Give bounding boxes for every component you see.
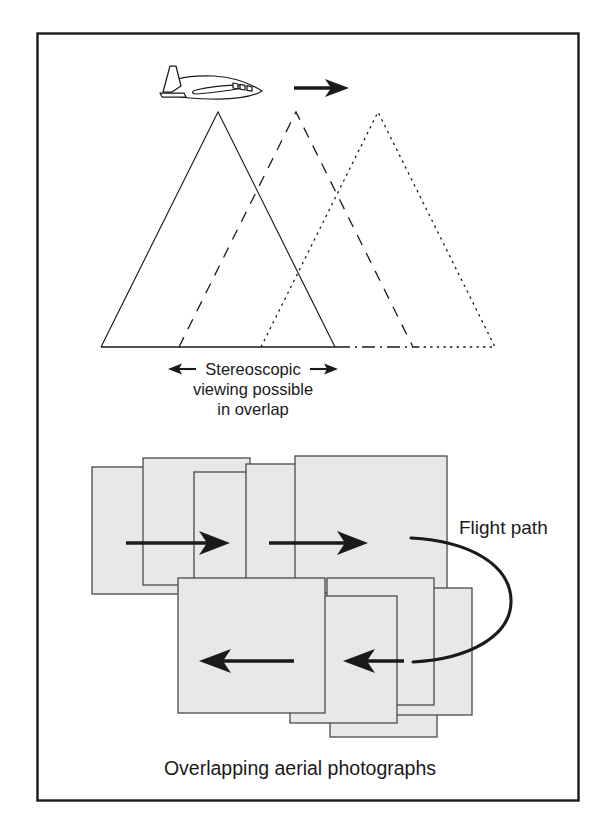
photo-5 — [295, 456, 447, 593]
overlap-label-line1: Stereoscopic — [205, 360, 300, 378]
photo-6 — [178, 578, 325, 713]
figure-root: Stereoscopic viewing possible in overlap — [0, 0, 602, 832]
overlap-label-line3: in overlap — [217, 400, 289, 418]
overlap-label-line2: viewing possible — [193, 380, 313, 398]
flight-path-label: Flight path — [459, 517, 548, 538]
aerial-photography-diagram: Stereoscopic viewing possible in overlap — [0, 0, 602, 832]
lower-panel-caption: Overlapping aerial photographs — [164, 757, 436, 779]
